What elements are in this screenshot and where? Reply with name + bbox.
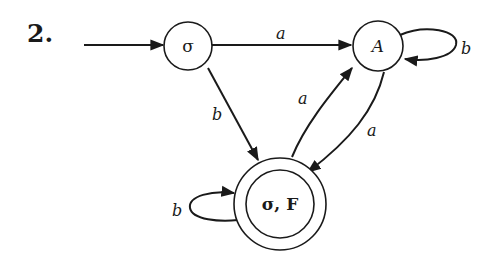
state-sigma: σ [164, 22, 212, 70]
edge-label-sigma-sigmaF: b [212, 105, 222, 124]
state-label-sigma: σ [182, 36, 194, 56]
edge-label-A-self: b [461, 39, 471, 58]
edge-sigmaF-self-loop: b [172, 192, 238, 220]
state-A: A [353, 21, 403, 71]
edge-sigma-to-sigmaF: b [208, 68, 258, 160]
edge-A-self-loop: b [400, 29, 471, 60]
edge-sigmaF-to-A: a [292, 68, 352, 157]
state-label-A: A [370, 36, 384, 56]
edge-A-to-sigmaF: a [308, 72, 384, 172]
edge-label-A-sigmaF: a [367, 121, 377, 140]
edge-label-sigma-A: a [276, 24, 286, 43]
state-label-sigmaF: σ, F [262, 194, 298, 214]
edge-sigma-to-A: a [212, 24, 351, 45]
edge-label-sigmaF-A: a [298, 89, 308, 108]
state-sigmaF-accepting: σ, F [234, 158, 326, 250]
edge-label-sigmaF-self: b [172, 201, 182, 220]
automaton-diagram: a b b a a b σ A σ, F [0, 0, 499, 257]
